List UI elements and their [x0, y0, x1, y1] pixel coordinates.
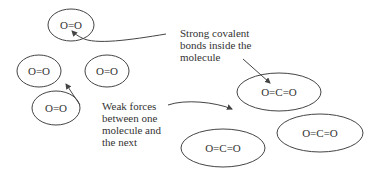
molecule-formula: O=O	[60, 19, 82, 31]
label-strong-covalent: Strong covalent bonds inside the molecul…	[180, 27, 252, 63]
molecule-formula: O=C=O	[261, 86, 297, 98]
molecule-co2-right: O=C=O	[277, 114, 363, 152]
molecule-o2-middle: O=O	[85, 55, 129, 87]
molecule-formula: O=C=O	[205, 142, 241, 154]
diagram: O=O O=O O=O O=O O=C=O O=C=O O=C=O Strong…	[0, 0, 380, 173]
label-line: between one	[102, 112, 157, 124]
label-line: the next	[102, 136, 137, 148]
molecule-o2-bottom: O=O	[32, 91, 80, 125]
arrow-covalent-to-o2	[72, 31, 166, 41]
molecule-formula: O=O	[96, 65, 118, 77]
arrow-weak-to-o2	[66, 84, 80, 105]
label-line: Weak forces	[102, 100, 156, 112]
label-line: molecule	[180, 51, 220, 63]
molecule-o2-left: O=O	[17, 55, 61, 87]
molecule-formula: O=O	[45, 102, 67, 114]
molecule-co2-bottom: O=C=O	[181, 129, 265, 167]
label-line: molecule and	[102, 124, 161, 136]
molecule-formula: O=O	[28, 65, 50, 77]
molecule-co2-top: O=C=O	[237, 73, 321, 111]
arrow-weak-between-molecules	[168, 102, 232, 109]
molecule-formula: O=C=O	[302, 127, 338, 139]
molecule-o2-top: O=O	[48, 9, 94, 41]
label-line: bonds inside the	[180, 39, 252, 51]
label-line: Strong covalent	[180, 27, 249, 39]
label-weak-forces: Weak forces between one molecule and the…	[102, 100, 161, 148]
